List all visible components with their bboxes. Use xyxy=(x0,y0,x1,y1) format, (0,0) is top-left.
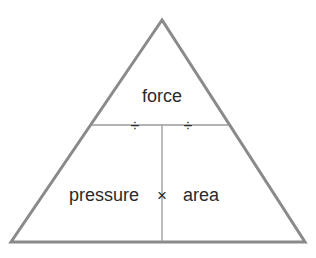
formula-triangle-diagram: force ÷ ÷ pressure × area xyxy=(0,0,316,258)
divide-left-operator: ÷ xyxy=(131,117,140,134)
area-label: area xyxy=(183,185,220,205)
force-label: force xyxy=(142,86,182,106)
triangle-outline xyxy=(11,20,305,242)
divide-right-operator: ÷ xyxy=(184,117,193,134)
pressure-label: pressure xyxy=(69,185,139,205)
multiply-operator: × xyxy=(157,186,167,205)
